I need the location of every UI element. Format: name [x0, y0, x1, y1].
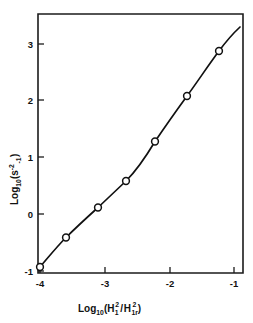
x-axis-label: Log10(H12/H1r2): [78, 301, 141, 315]
data-point-7: [216, 48, 223, 55]
x-tick-label-neg3: -3: [101, 278, 109, 289]
x-tick-label-neg2: -2: [166, 278, 174, 289]
ylabel-unit-sub: -1: [15, 157, 22, 163]
ylabel-close-paren: ): [9, 154, 20, 157]
x-axis-ticks: [40, 267, 234, 273]
data-point-4: [123, 178, 130, 185]
xlabel-denominator-symbol: H: [124, 303, 131, 314]
y-tick-label-1: 1: [28, 152, 34, 163]
y-tick-label-3: 3: [28, 39, 33, 50]
chart-plot: 3 2 1 0 -1 -4 -3 -2 -1 Log10(: [0, 0, 253, 323]
xlabel-slash: /: [120, 303, 123, 314]
y-axis-label: Log10(s-2-1): [8, 154, 22, 205]
svg-text:Log10(s-2-1): Log10(s-2-1): [8, 154, 22, 205]
xlabel-numerator-symbol: H: [107, 303, 114, 314]
data-series-line: [40, 27, 240, 267]
x-tick-labels: -4 -3 -2 -1: [36, 278, 239, 289]
x-tick-label-neg1: -1: [230, 278, 239, 289]
y-axis-ticks: [38, 44, 44, 271]
figure-container: 3 2 1 0 -1 -4 -3 -2 -1 Log10(: [0, 0, 253, 323]
y-tick-label-0: 0: [28, 209, 33, 220]
data-point-5: [152, 138, 159, 145]
xlabel-close-paren: ): [138, 303, 141, 314]
x-tick-label-neg4: -4: [36, 278, 45, 289]
xlabel-denominator-sup: 2: [132, 301, 136, 308]
xlabel-numerator-sup: 2: [115, 301, 119, 308]
y-tick-label-2: 2: [28, 95, 33, 106]
xlabel-log-text: Log: [78, 303, 96, 314]
data-point-3: [95, 204, 102, 211]
svg-text:Log10(H12/H1r2): Log10(H12/H1r2): [78, 301, 141, 315]
ylabel-unit-sup: -2: [8, 164, 15, 170]
data-markers: [37, 48, 223, 271]
data-point-1: [37, 264, 44, 271]
y-tick-labels: 3 2 1 0 -1: [25, 39, 34, 277]
xlabel-numerator-sub: 1: [115, 309, 119, 316]
ylabel-log-text: Log: [9, 187, 20, 205]
data-point-6: [184, 93, 191, 100]
y-tick-label-neg1: -1: [25, 266, 34, 277]
data-point-2: [63, 234, 70, 241]
